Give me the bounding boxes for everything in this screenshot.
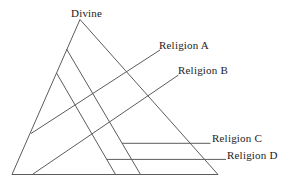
- religion-a-label: Religion A: [159, 40, 209, 51]
- religion-c-label: Religion C: [212, 133, 262, 144]
- diagram-canvas: Divine Religion A Religion B Religion C …: [0, 0, 283, 184]
- religion-d-label: Religion D: [227, 150, 278, 161]
- religion-c-line: [67, 49, 141, 175]
- religion-a-line: [31, 50, 160, 134]
- divine-label: Divine: [71, 8, 102, 19]
- religion-b-label: Religion B: [178, 65, 228, 76]
